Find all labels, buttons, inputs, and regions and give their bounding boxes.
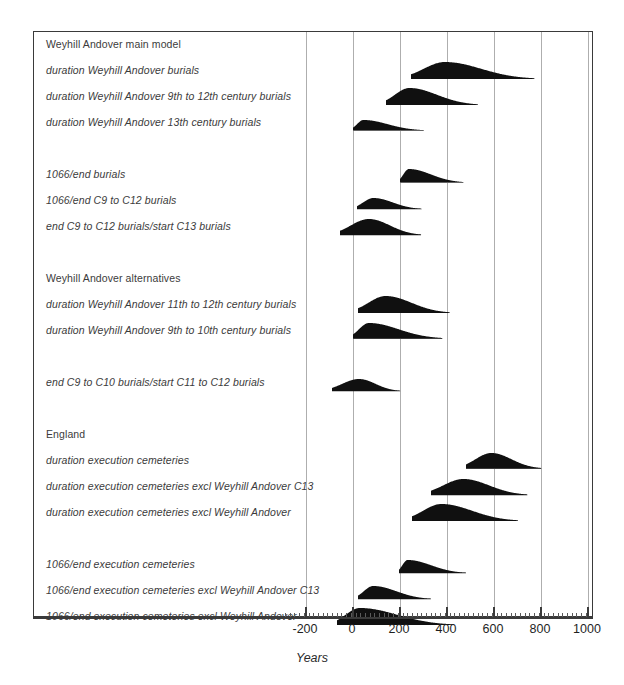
x-axis-minor-tick (412, 613, 413, 617)
x-axis-minor-tick (417, 613, 418, 617)
x-axis-minor-tick (478, 613, 479, 617)
x-axis-minor-tick (544, 613, 545, 617)
x-axis-minor-tick (290, 613, 291, 617)
x-axis-minor-tick (299, 613, 300, 617)
x-axis-minor-tick (553, 613, 554, 617)
distribution-curve (412, 503, 518, 522)
gridline--200 (306, 32, 307, 616)
distribution-curve (399, 559, 466, 574)
x-axis-minor-tick (454, 613, 455, 617)
x-axis-minor-tick (482, 613, 483, 617)
x-axis-tick-800 (540, 607, 542, 617)
x-axis-minor-tick (356, 613, 357, 617)
x-axis-tick-label: 800 (530, 622, 551, 636)
distribution-label: duration Weyhill Andover 13th century bu… (46, 116, 261, 128)
distribution-label: 1066/end execution cemeteries (46, 558, 195, 570)
x-axis-minor-tick (388, 613, 389, 617)
x-axis-minor-tick (511, 613, 512, 617)
x-axis-minor-tick (581, 613, 582, 617)
gridline-600 (494, 32, 495, 616)
distribution-curve (431, 478, 527, 496)
x-axis-minor-tick (341, 613, 342, 617)
distribution-label: duration execution cemeteries excl Weyhi… (46, 506, 291, 518)
x-axis-minor-tick (468, 613, 469, 617)
distribution-curve (386, 87, 478, 106)
distribution-curve (358, 295, 450, 314)
x-axis-minor-tick (440, 613, 441, 617)
x-axis-minor-tick (525, 613, 526, 617)
distribution-label: duration Weyhill Andover burials (46, 64, 199, 76)
distribution-label: 1066/end burials (46, 168, 125, 180)
x-axis-tick-label: 0 (349, 622, 356, 636)
x-axis-minor-tick (379, 613, 380, 617)
x-axis-minor-tick (374, 613, 375, 617)
x-axis-minor-tick (318, 613, 319, 617)
x-axis-tick-label: 600 (483, 622, 504, 636)
x-axis-minor-tick (520, 613, 521, 617)
x-axis-minor-tick (501, 613, 502, 617)
x-axis-minor-tick (313, 613, 314, 617)
x-axis-title: Years (0, 651, 624, 665)
distribution-curve (357, 197, 422, 210)
x-axis-minor-tick (370, 613, 371, 617)
x-axis-minor-tick (459, 613, 460, 617)
x-axis-minor-tick (534, 613, 535, 617)
x-axis-minor-tick (327, 613, 328, 617)
x-axis-minor-tick (515, 613, 516, 617)
x-axis-minor-tick (426, 613, 427, 617)
x-axis-tick-200 (399, 607, 401, 617)
x-axis-tick-600 (493, 607, 495, 617)
distribution-label: duration Weyhill Andover 11th to 12th ce… (46, 298, 296, 310)
probability-distribution-figure: Weyhill Andover main modelduration Weyhi… (0, 0, 624, 685)
x-axis-minor-tick (393, 613, 394, 617)
x-axis-tick--200 (305, 607, 307, 617)
distribution-curve (466, 452, 541, 470)
distribution-label: duration Weyhill Andover 9th to 10th cen… (46, 324, 291, 336)
x-axis-minor-tick (548, 613, 549, 617)
x-axis-minor-tick (285, 613, 286, 617)
x-axis-minor-tick (450, 613, 451, 617)
x-axis-minor-tick (529, 613, 530, 617)
x-axis-minor-tick (337, 613, 338, 617)
group-heading: England (46, 428, 85, 440)
x-axis-tick-label: -200 (292, 622, 317, 636)
group-heading: Weyhill Andover alternatives (46, 272, 181, 284)
distribution-label: end C9 to C12 burials/start C13 burials (46, 220, 231, 232)
x-axis-tick-label: 400 (436, 622, 457, 636)
x-axis-minor-tick (431, 613, 432, 617)
x-axis-minor-tick (332, 613, 333, 617)
distribution-label: duration Weyhill Andover 9th to 12th cen… (46, 90, 291, 102)
gridline-400 (447, 32, 448, 616)
distribution-label: 1066/end execution cemeteries excl Weyhi… (46, 610, 297, 622)
x-axis-tick-label: 1000 (573, 622, 601, 636)
x-axis-minor-tick (473, 613, 474, 617)
distribution-label: end C9 to C10 burials/start C11 to C12 b… (46, 376, 265, 388)
gridline-1000 (588, 32, 589, 616)
x-axis-minor-tick (558, 613, 559, 617)
group-heading: Weyhill Andover main model (46, 38, 181, 50)
distribution-curve (353, 119, 424, 132)
x-axis-minor-tick (562, 613, 563, 617)
x-axis-minor-tick (576, 613, 577, 617)
x-axis-minor-tick (346, 613, 347, 617)
distribution-curve (332, 378, 400, 392)
gridline-800 (541, 32, 542, 616)
x-axis-minor-tick (360, 613, 361, 617)
x-axis-tick-400 (446, 607, 448, 617)
x-axis-minor-tick (497, 613, 498, 617)
x-axis-minor-tick (403, 613, 404, 617)
x-axis-tick-label: 200 (389, 622, 410, 636)
x-axis-tick-0 (352, 607, 354, 617)
distribution-label: duration execution cemeteries (46, 454, 189, 466)
distribution-curve (353, 322, 442, 340)
x-axis-minor-tick (506, 613, 507, 617)
x-axis-minor-tick (407, 613, 408, 617)
x-axis-minor-tick (487, 613, 488, 617)
x-axis-minor-tick (309, 613, 310, 617)
distribution-curve (358, 585, 431, 600)
distribution-curve (400, 168, 463, 184)
x-axis-minor-tick (572, 613, 573, 617)
distribution-curve (340, 218, 421, 236)
x-axis-minor-tick (294, 613, 295, 617)
x-axis-minor-tick (464, 613, 465, 617)
